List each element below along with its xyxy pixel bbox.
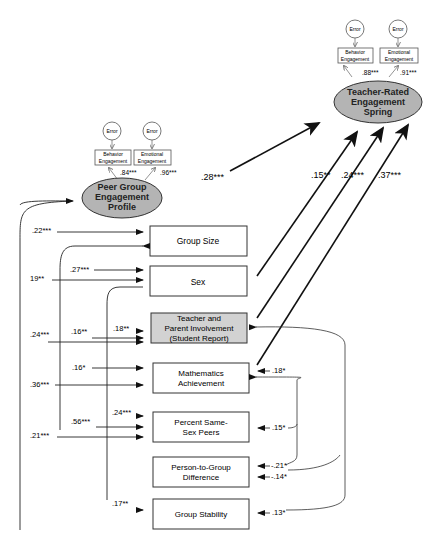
predictor-teacher-parent-involvement: Teacher and Parent Involvement (Student … — [151, 313, 247, 343]
correlation-value: .13* — [272, 508, 285, 517]
path-sex-to-teacher — [257, 132, 357, 276]
indicator-label: Behavior — [103, 151, 123, 157]
correlation-value: .16** — [71, 327, 87, 336]
right-correlation-labels: .18* .15* -.21* -.14* .13* — [258, 366, 287, 517]
right-correlation-arcs — [256, 327, 345, 510]
peer-behavior-indicator: Error Behavior Engagement .84*** — [95, 122, 137, 180]
peer-emotional-indicator: Error Emotional Engagement .96*** — [134, 122, 177, 180]
correlation-value: .24*** — [30, 330, 49, 339]
predictor-percent-same-sex-peers: Percent Same- Sex Peers — [153, 412, 249, 442]
correlation-value: .22*** — [32, 226, 51, 235]
predictor-label: Group Stability — [175, 510, 227, 519]
latent-label: Peer Group — [97, 182, 147, 192]
teacher-indicators: Error Behavior Engagement .88*** Error E… — [338, 20, 418, 77]
indicator-label: Emotional — [141, 151, 163, 157]
path-coefficient: .37*** — [378, 170, 402, 180]
teacher-rated-engagement-latent: Teacher-Rated Engagement Spring — [334, 81, 422, 123]
correlation-value: .36*** — [30, 380, 49, 389]
left-correlation-labels: .22*** 19** .24*** .36*** .21*** .27*** … — [30, 226, 131, 508]
teacher-behavior-indicator: Error Behavior Engagement .88*** — [338, 20, 379, 77]
correlation-value: .56*** — [71, 417, 90, 426]
correlation-value: .24*** — [112, 408, 131, 417]
indicator-label: Engagement — [341, 56, 370, 62]
error-label: Error — [349, 26, 360, 32]
correlation-value: 19** — [30, 274, 44, 283]
predictor-boxes: Group Size Sex Teacher and Parent Involv… — [150, 226, 249, 529]
peer-indicators: Error Behavior Engagement .84*** Error E… — [95, 122, 177, 180]
predictor-label: Achievement — [178, 379, 225, 388]
predictor-label: Sex — [191, 277, 206, 287]
loading-value: .88*** — [362, 69, 379, 76]
path-involvement-to-teacher — [257, 128, 383, 318]
predictor-label: (Student Report) — [169, 334, 228, 343]
predictor-label: Percent Same- — [174, 418, 228, 427]
predictor-label: Person-to-Group — [171, 463, 231, 472]
error-label: Error — [106, 128, 117, 134]
indicator-label: Engagement — [385, 56, 414, 62]
teacher-emotional-indicator: Error Emotional Engagement .91*** — [380, 20, 418, 77]
error-label: Error — [392, 26, 403, 32]
predictor-label: Mathematics — [178, 369, 223, 378]
predictor-label: Group Size — [177, 236, 220, 246]
correlation-value: .21*** — [30, 431, 49, 440]
correlation-value: .15* — [272, 423, 285, 432]
indicator-label: Emotional — [388, 49, 410, 55]
peer-group-engagement-latent: Peer Group Engagement Profile — [82, 178, 162, 218]
indicator-label: Engagement — [99, 158, 128, 164]
error-label: Error — [146, 128, 157, 134]
correlation-value: .18** — [113, 324, 129, 333]
loading-value: .96*** — [160, 169, 177, 176]
indicator-label: Engagement — [138, 158, 167, 164]
path-diagram: Error Behavior Engagement .84*** Error E… — [0, 0, 446, 547]
predictor-label: Sex Peers — [183, 428, 220, 437]
correlation-value: -.21* — [271, 461, 287, 470]
latent-label: Teacher-Rated — [347, 87, 409, 97]
predictor-mathematics-achievement: Mathematics Achievement — [153, 363, 249, 393]
latent-label: Engagement — [95, 192, 149, 202]
correlation-value: -.14* — [271, 472, 287, 481]
correlation-value: .16* — [72, 363, 85, 372]
predictor-label: Parent Involvement — [165, 324, 235, 333]
path-coefficient: .24*** — [341, 170, 365, 180]
latent-label: Spring — [364, 107, 393, 117]
predictor-group-stability: Group Stability — [153, 499, 249, 529]
loading-value: .84*** — [120, 169, 137, 176]
latent-label: Engagement — [351, 97, 405, 107]
correlation-value: .27*** — [70, 265, 89, 274]
latent-label: Profile — [108, 202, 136, 212]
correlation-value: .17** — [112, 499, 128, 508]
predictor-label: Difference — [183, 473, 220, 482]
path-peer-to-teacher — [230, 123, 319, 171]
path-math-to-teacher — [257, 125, 408, 365]
loading-value: .91*** — [400, 69, 417, 76]
predictor-person-to-group-difference: Person-to-Group Difference — [153, 457, 249, 487]
path-coefficient: .15** — [311, 170, 331, 180]
predictor-label: Teacher and — [177, 314, 221, 323]
correlation-value: .18* — [272, 366, 285, 375]
indicator-label: Behavior — [345, 49, 365, 55]
predictor-group-size: Group Size — [150, 226, 247, 256]
predictor-sex: Sex — [150, 266, 247, 296]
path-coefficient: .28*** — [201, 172, 225, 182]
